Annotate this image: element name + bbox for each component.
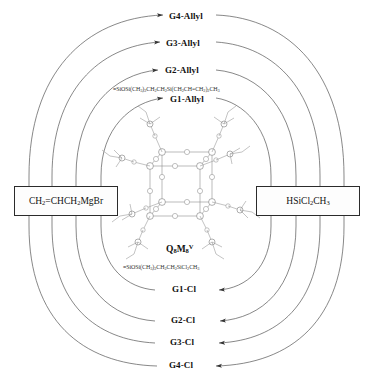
generation-label-g2-allyl: G2-Allyl: [165, 66, 199, 75]
arc-left-to-g4-cl: [29, 216, 157, 366]
generation-label-g4-allyl: G4-Allyl: [169, 12, 203, 21]
arc-right-to-g3-allyl: [216, 42, 320, 186]
generation-label-g1-cl: G1-Cl: [172, 285, 196, 294]
arc-left-to-g1-cl: [101, 216, 155, 290]
reagent-chlorosilane-formula: HSiCl2CH3: [286, 196, 329, 206]
core-label-q8m8: Q8M8V: [166, 243, 194, 254]
intermediate-formula-chloro: ≡SiOSi(CH3)2CH2CH2SiCl2CH3: [123, 264, 199, 271]
generation-label-g1-allyl: G1-Allyl: [170, 95, 204, 104]
arc-right-to-g2-cl: [220, 216, 296, 321]
arc-right-to-g4-cl: [216, 216, 344, 366]
intermediate-formula-allyl: ≡SiOSi(CH3)2CH2CH2Si(CH2CH=CH2)2CH3: [113, 86, 220, 93]
generation-label-g3-allyl: G3-Allyl: [166, 39, 200, 48]
q8m8-cage-structure: [102, 106, 260, 259]
generation-label-g3-cl: G3-Cl: [170, 338, 194, 347]
arc-left-to-g1-allyl: [101, 98, 163, 186]
arc-right-to-g3-cl: [219, 216, 320, 343]
arc-right-to-g4-allyl: [216, 15, 344, 186]
generation-label-g2-cl: G2-Cl: [171, 316, 195, 325]
generation-label-g4-cl: G4-Cl: [169, 361, 193, 370]
arc-right-to-g1-allyl: [216, 98, 271, 186]
reagent-box-allyl-grignard[interactable]: CH2=CHCH2MgBr: [14, 186, 118, 216]
arc-left-to-g3-cl: [52, 216, 155, 343]
arc-left-to-g4-allyl: [29, 15, 163, 186]
reagent-box-chlorosilane[interactable]: HSiCl2CH3: [256, 186, 360, 216]
arc-right-to-g1-cl: [219, 216, 271, 290]
reagent-allyl-grignard-formula: CH2=CHCH2MgBr: [29, 196, 103, 206]
arc-right-to-g2-allyl: [216, 70, 296, 186]
